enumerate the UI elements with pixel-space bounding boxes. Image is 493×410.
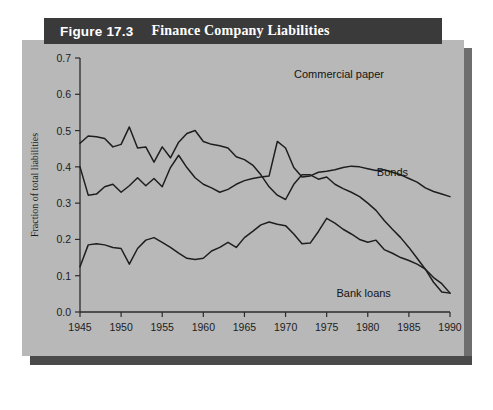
x-tick-label: 1960 [192,321,216,333]
y-tick-label: 0.6 [56,88,71,100]
series-annotation: Commercial paper [294,68,384,80]
panel-shadow-bottom [30,356,472,365]
figure-title: Finance Company Liabilities [151,23,329,39]
x-tick-label: 1955 [151,321,175,333]
figure-container: Figure 17.3 Finance Company Liabilities … [0,0,493,410]
y-axis-ticks: 0.00.10.20.30.40.50.60.7 [56,52,80,318]
y-tick-label: 0.1 [56,270,71,282]
x-tick-label: 1965 [233,321,257,333]
y-tick-label: 0.4 [56,161,71,173]
series-annotations: Commercial paperBondsBank loans [294,68,408,300]
y-tick-label: 0.5 [56,125,71,137]
data-series-group [80,127,450,293]
series-line [80,127,450,293]
y-axis-title: Fraction of total liabilities [29,133,40,237]
y-tick-label: 0.3 [56,197,71,209]
y-tick-label: 0.2 [56,233,71,245]
x-tick-label: 1990 [438,321,462,333]
x-tick-label: 1985 [397,321,421,333]
x-tick-label: 1970 [274,321,298,333]
y-tick-label: 0.0 [56,306,71,318]
x-tick-label: 1945 [68,321,92,333]
plot-area: 0.00.10.20.30.40.50.60.7 194519501955196… [22,40,464,356]
series-annotation: Bank loans [336,287,391,299]
x-tick-label: 1950 [109,321,133,333]
y-tick-label: 0.7 [56,52,71,64]
x-axis-ticks: 1945195019551960196519701975198019851990 [68,312,462,333]
series-line [80,218,450,293]
series-annotation: Bonds [377,166,409,178]
x-tick-label: 1975 [315,321,339,333]
panel-shadow-right [464,48,472,356]
x-tick-label: 1980 [356,321,380,333]
figure-number: Figure 17.3 [60,24,133,39]
line-chart: 0.00.10.20.30.40.50.60.7 194519501955196… [22,40,464,356]
